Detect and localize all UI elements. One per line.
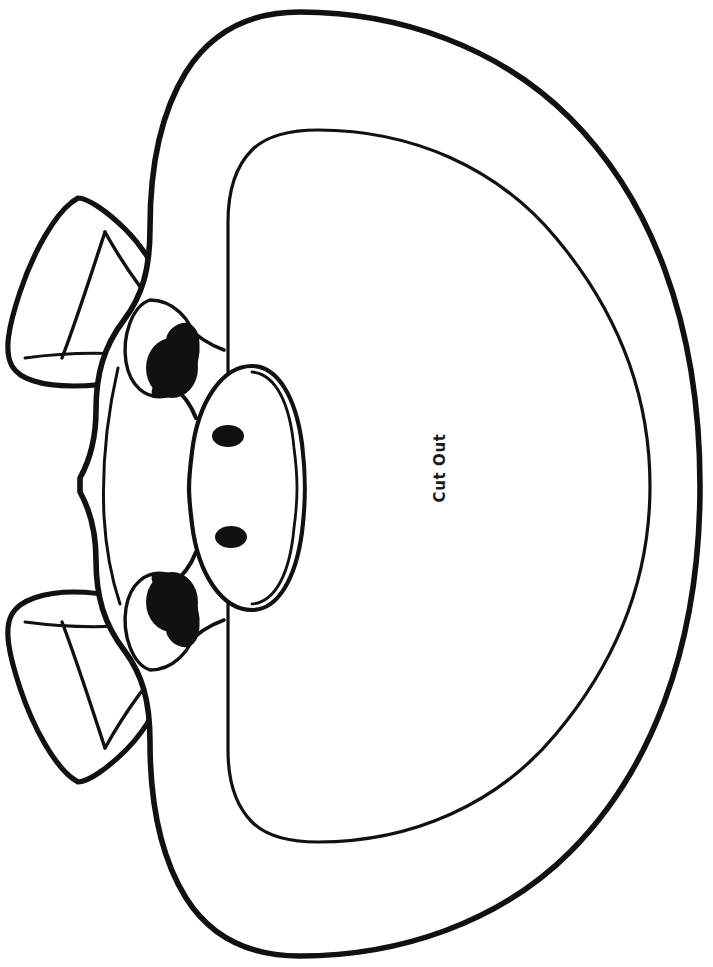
eye-top-pupil-fill xyxy=(146,338,198,398)
snout-outer xyxy=(189,366,305,610)
nostril-upper xyxy=(212,425,244,447)
template-page: Cut Out xyxy=(0,0,713,967)
mask-artwork xyxy=(0,0,713,967)
snout-group xyxy=(189,366,305,610)
nostril-lower xyxy=(215,526,247,548)
cut-out-label: Cut Out xyxy=(431,434,449,503)
